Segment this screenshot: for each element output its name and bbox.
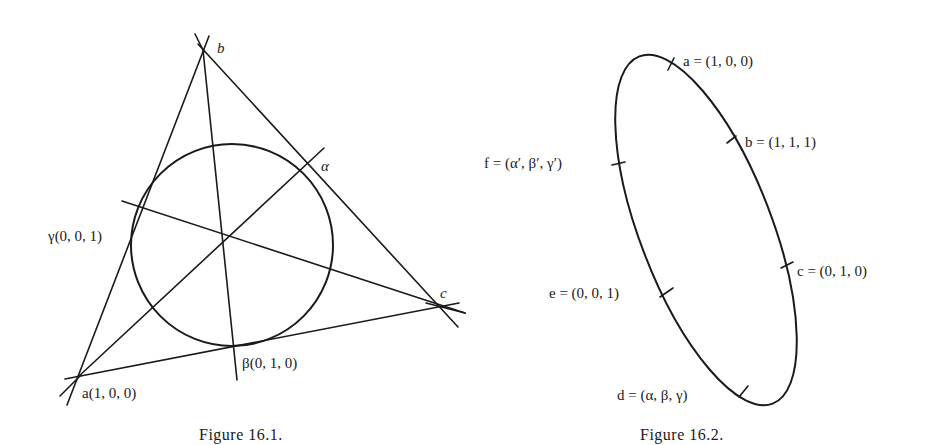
figure-16-2: a = (1, 0, 0) b = (1, 1, 1) c = (0, 1, 0… <box>484 33 867 444</box>
tick-a <box>60 376 80 396</box>
caption-figure-16-2: Figure 16.2. <box>640 426 724 444</box>
label-point-b: b = (1, 1, 1) <box>745 134 816 151</box>
side-ab <box>67 36 209 405</box>
cevian-a-alpha <box>78 148 324 377</box>
cevian-b-beta <box>203 50 237 380</box>
incircle <box>131 144 333 346</box>
label-point-f: f = (α′, β′, γ′) <box>484 155 562 172</box>
figure-16-1: b α γ(0, 0, 1) c β(0, 1, 0) a(1, 0, 0) F… <box>47 34 465 444</box>
side-bc <box>198 44 458 327</box>
tick-b <box>727 136 736 143</box>
label-gamma: γ(0, 0, 1) <box>47 228 102 245</box>
label-point-d: d = (α, β, γ) <box>617 387 688 404</box>
caption-figure-16-1: Figure 16.1. <box>199 426 283 444</box>
label-c: c <box>440 285 447 301</box>
label-a: a(1, 0, 0) <box>82 385 136 402</box>
label-b: b <box>217 40 225 56</box>
cevian-c-gamma <box>122 201 465 313</box>
label-beta: β(0, 1, 0) <box>242 355 297 372</box>
label-point-e: e = (0, 0, 1) <box>549 285 619 302</box>
label-alpha: α <box>321 158 330 174</box>
tick-d <box>739 386 748 397</box>
label-point-c: c = (0, 1, 0) <box>797 263 867 280</box>
label-point-a: a = (1, 0, 0) <box>683 53 753 70</box>
conic-ellipse <box>578 33 835 428</box>
figure-canvas: b α γ(0, 0, 1) c β(0, 1, 0) a(1, 0, 0) F… <box>0 0 946 445</box>
